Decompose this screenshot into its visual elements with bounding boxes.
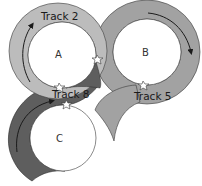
zone-a-area [28, 22, 96, 88]
zone-c-label: C [56, 133, 63, 144]
zone-a-label: A [55, 49, 62, 60]
track-5-label: Track 5 [133, 90, 172, 102]
track-diagram: Track 2 Track 5 Track 8 A B C [0, 0, 202, 186]
zone-c-area [30, 105, 96, 171]
zone-b-label: B [142, 47, 149, 58]
track-2-label: Track 2 [40, 10, 79, 22]
track-8-label: Track 8 [51, 88, 90, 100]
